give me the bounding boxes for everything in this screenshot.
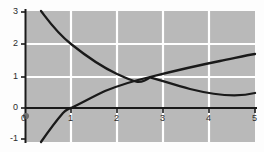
x-tick-label-5: 5 <box>252 114 257 123</box>
x-tick-label-3: 3 <box>160 114 165 123</box>
y-tick-label-3: 3 <box>2 7 18 16</box>
chart-figure: 3 2 1 0 -1 0 1 2 3 4 5 <box>0 0 264 152</box>
y-tick-label-neg1: -1 <box>0 134 18 143</box>
x-tick-label-0: 0 <box>21 114 26 123</box>
y-tick-label-2: 2 <box>2 39 18 48</box>
x-tick-label-2: 2 <box>114 114 119 123</box>
plot-canvas <box>0 0 264 152</box>
y-tick-label-0: 0 <box>2 103 18 112</box>
x-tick-label-4: 4 <box>206 114 211 123</box>
x-tick-label-1: 1 <box>68 114 73 123</box>
y-tick-label-1: 1 <box>2 72 18 81</box>
